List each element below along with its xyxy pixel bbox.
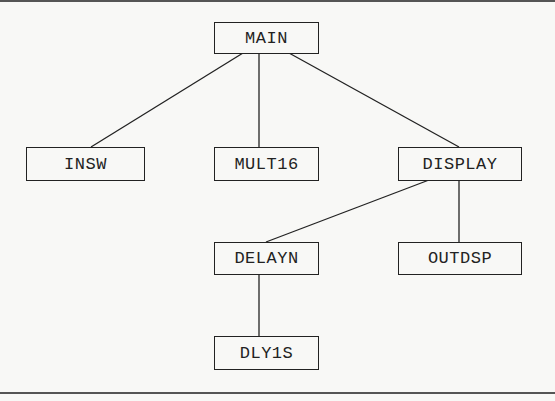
node-delayn: DELAYN: [214, 242, 319, 275]
node-main: MAIN: [214, 22, 319, 54]
node-outdsp: OUTDSP: [398, 242, 522, 275]
node-display: DISPLAY: [398, 147, 522, 181]
bottom-rule: [0, 392, 555, 394]
node-delayn-label: DELAYN: [234, 249, 298, 268]
node-dly1s: DLY1S: [214, 336, 319, 370]
edge-main-display: [289, 53, 459, 147]
edge-display-delayn: [266, 180, 429, 242]
node-main-label: MAIN: [245, 29, 288, 48]
node-insw: INSW: [26, 147, 145, 181]
edge-main-insw: [91, 53, 243, 147]
node-mult16-label: MULT16: [234, 155, 298, 174]
node-outdsp-label: OUTDSP: [428, 249, 492, 268]
node-dly1s-label: DLY1S: [240, 344, 294, 363]
node-insw-label: INSW: [64, 155, 107, 174]
node-mult16: MULT16: [214, 147, 319, 181]
node-display-label: DISPLAY: [423, 155, 498, 174]
